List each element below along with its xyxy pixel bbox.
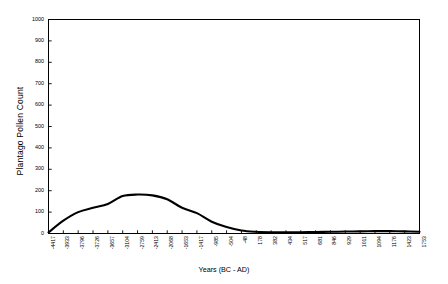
x-tick-label: -1653 [184, 236, 189, 249]
x-tick-label: -504 [229, 236, 234, 246]
x-tick-label: -985 [214, 236, 219, 246]
x-tick-label: -2413 [154, 236, 159, 249]
x-tick-label: 1011 [362, 236, 367, 247]
x-tick-label: 929 [347, 236, 352, 245]
chart-container: Plantago Pollen Count 010020030040050060… [0, 0, 448, 284]
x-tick-label: -3657 [110, 236, 115, 249]
plot-frame [49, 20, 420, 234]
x-axis-tick-labels: -4417-3933-3796-3726-3657-3104-2759-2413… [0, 236, 448, 264]
x-tick-label: -3796 [80, 236, 85, 249]
x-tick-label: -48 [243, 236, 248, 244]
x-tick-label: 1176 [392, 236, 397, 247]
x-tick-label: -4417 [51, 236, 56, 249]
x-tick-label: 434 [288, 236, 293, 245]
x-tick-label: -3726 [95, 236, 100, 249]
x-tick-label: 1094 [377, 236, 382, 248]
x-tick-label: -2759 [140, 236, 145, 249]
x-tick-label: -3104 [125, 236, 130, 249]
x-tick-label: -3933 [65, 236, 70, 249]
x-tick-label: 846 [332, 236, 337, 245]
x-tick-label: 681 [318, 236, 323, 245]
x-tick-label: 517 [303, 236, 308, 245]
x-tick-label: 1423 [407, 236, 412, 248]
x-axis-title: Years (BC - AD) [0, 265, 448, 274]
x-tick-label: 1753 [422, 236, 427, 248]
x-tick-label: 382 [273, 236, 278, 245]
x-tick-label: 178 [258, 236, 263, 245]
x-tick-label: -2068 [169, 236, 174, 249]
x-tick-label: -1417 [199, 236, 204, 249]
